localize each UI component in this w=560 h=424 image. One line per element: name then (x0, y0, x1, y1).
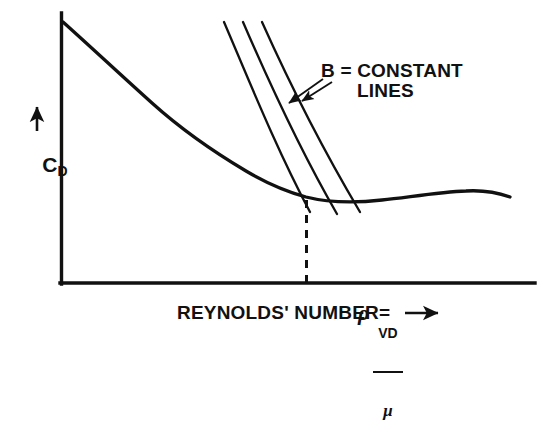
callout-text-line2: LINES (357, 81, 414, 101)
b-constant-line-2 (243, 22, 337, 214)
x-axis-fraction-bar (373, 371, 403, 373)
x-axis-rho-symbol: ρ (358, 302, 370, 324)
x-axis-fraction-numerator: VD (373, 326, 403, 341)
y-axis-label-subscript: D (58, 163, 68, 179)
x-axis-fraction-denominator: μ (373, 402, 403, 420)
b-constant-line-3 (262, 22, 360, 212)
y-axis-label-main: C (42, 153, 57, 176)
y-axis-label: CD (18, 133, 68, 199)
x-axis-fraction: VD μ (373, 297, 403, 424)
callout-text-line1: B = CONSTANT (321, 61, 463, 81)
cd-curve (63, 22, 510, 202)
